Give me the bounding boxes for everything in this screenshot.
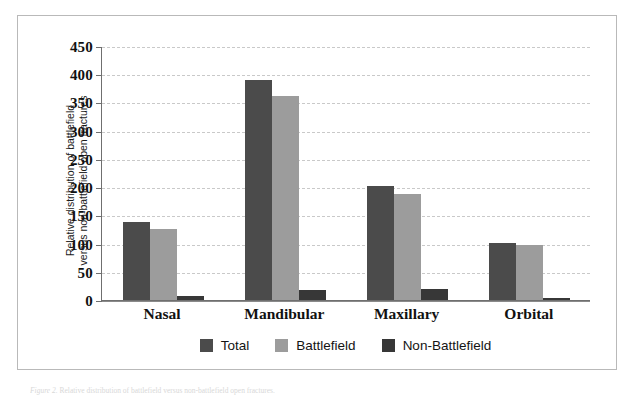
x-axis-label-maxillary: Maxillary (374, 305, 439, 323)
bar-maxillary-non-battlefield (421, 289, 448, 300)
y-tick-mark-0 (96, 301, 102, 302)
y-tick-mark-250 (96, 160, 102, 161)
plot-inner (102, 47, 590, 300)
y-tick-mark-450 (96, 47, 102, 48)
figure-caption-text: Relative distribution of battlefield ver… (60, 386, 275, 395)
figure-caption-label: Figure 2. (30, 386, 58, 395)
bar-nasal-total (123, 222, 150, 300)
bar-maxillary-battlefield (394, 194, 421, 300)
gridline-450 (102, 47, 590, 48)
figure-caption: Figure 2. Relative distribution of battl… (30, 386, 590, 395)
x-axis-label-mandibular: Mandibular (244, 305, 324, 323)
y-tick-label-450: 450 (70, 39, 93, 56)
gridline-200 (102, 188, 590, 189)
gridline-350 (102, 103, 590, 104)
bar-mandibular-non-battlefield (299, 290, 326, 300)
gridline-150 (102, 216, 590, 217)
legend-label-battlefield: Battlefield (296, 338, 355, 353)
y-tick-mark-400 (96, 75, 102, 76)
legend-item-total[interactable]: Total (200, 338, 250, 353)
x-axis-category-labels: NasalMandibularMaxillaryOrbital (101, 305, 590, 327)
legend-item-non-battlefield[interactable]: Non-Battlefield (382, 338, 492, 353)
bar-orbital-non-battlefield (543, 298, 570, 300)
y-tick-mark-100 (96, 245, 102, 246)
bar-orbital-battlefield (516, 245, 543, 300)
y-tick-label-400: 400 (70, 67, 93, 84)
legend-swatch-icon-battlefield (275, 339, 288, 352)
y-tick-label-200: 200 (70, 180, 93, 197)
bar-mandibular-total (245, 80, 272, 300)
x-axis-label-nasal: Nasal (144, 305, 181, 323)
legend-item-battlefield[interactable]: Battlefield (275, 338, 355, 353)
bar-nasal-non-battlefield (177, 296, 204, 300)
y-axis-tick-labels: 050100150200250300350400450 (0, 0, 101, 399)
figure-panel: Relative distribution of battlefield ver… (0, 0, 634, 399)
bar-nasal-battlefield (150, 229, 177, 300)
y-tick-label-0: 0 (85, 293, 93, 310)
legend-label-non-battlefield: Non-Battlefield (403, 338, 492, 353)
y-tick-mark-50 (96, 273, 102, 274)
legend-swatch-icon-total (200, 339, 213, 352)
legend-label-total: Total (221, 338, 250, 353)
y-tick-label-50: 50 (78, 264, 93, 281)
bar-maxillary-total (367, 186, 394, 300)
y-tick-mark-150 (96, 216, 102, 217)
gridline-300 (102, 132, 590, 133)
legend-swatch-icon-non-battlefield (382, 339, 395, 352)
y-tick-label-150: 150 (70, 208, 93, 225)
y-tick-label-250: 250 (70, 151, 93, 168)
gridline-250 (102, 160, 590, 161)
gridline-400 (102, 75, 590, 76)
y-tick-label-300: 300 (70, 123, 93, 140)
y-tick-mark-350 (96, 103, 102, 104)
bar-mandibular-battlefield (272, 96, 299, 300)
chart-legend: TotalBattlefieldNon-Battlefield (101, 334, 590, 356)
plot-area (101, 47, 590, 301)
gridline-0 (102, 301, 590, 302)
x-axis-label-orbital: Orbital (504, 305, 553, 323)
bar-orbital-total (489, 243, 516, 300)
y-tick-label-350: 350 (70, 95, 93, 112)
y-tick-mark-200 (96, 188, 102, 189)
y-tick-mark-300 (96, 132, 102, 133)
y-tick-label-100: 100 (70, 236, 93, 253)
